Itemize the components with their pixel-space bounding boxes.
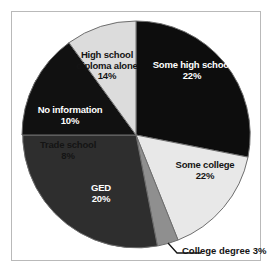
pie-svg <box>0 0 277 280</box>
slice-callout-college-degree: College degree 3% <box>182 246 266 256</box>
pie-chart: Some high school 22% Some college 22% GE… <box>0 0 277 280</box>
pie-slice-some-high-school[interactable] <box>136 21 250 157</box>
